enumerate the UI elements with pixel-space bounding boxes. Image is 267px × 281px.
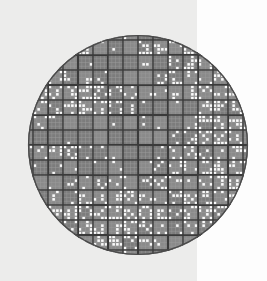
wafer-defect-bitmap-canvas[interactable] <box>0 0 267 281</box>
wafer-container[interactable] <box>0 0 267 281</box>
wafer-map-screenshot <box>0 0 267 281</box>
